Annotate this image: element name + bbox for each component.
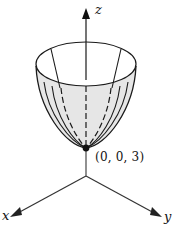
x-axis-arrowhead-icon [10,207,22,217]
z-axis-label: z [95,2,102,17]
vertex-label: (0, 0, 3) [95,150,144,164]
vertex-point [83,145,90,152]
z-axis-arrowhead-icon [82,8,90,19]
y-axis-label: y [164,209,171,224]
y-axis-arrowhead-icon [150,207,162,217]
x-axis-label: x [2,208,9,223]
paraboloid-diagram [0,0,176,230]
x-axis [10,176,86,217]
y-axis [86,176,162,217]
